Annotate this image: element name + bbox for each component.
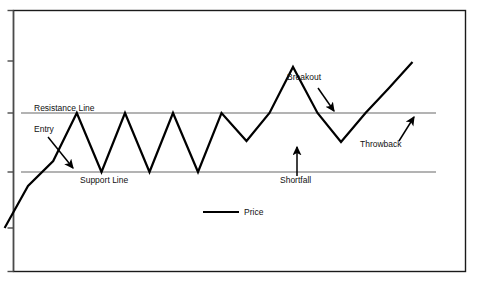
- annotation-shortfall: Shortfall: [280, 175, 311, 185]
- annotation-support-line: Support Line: [80, 175, 128, 185]
- annotation-breakout: Breakout: [287, 72, 321, 82]
- annotation-throwback: Throwback: [360, 139, 402, 149]
- annotation-entry: Entry: [34, 124, 54, 134]
- chart-figure: Resistance Line Entry Support Line Break…: [0, 0, 479, 285]
- legend-label-price: Price: [244, 207, 263, 217]
- price-chart-svg: [0, 0, 479, 285]
- annotation-resistance-line: Resistance Line: [34, 103, 94, 113]
- figure-background: [0, 0, 479, 285]
